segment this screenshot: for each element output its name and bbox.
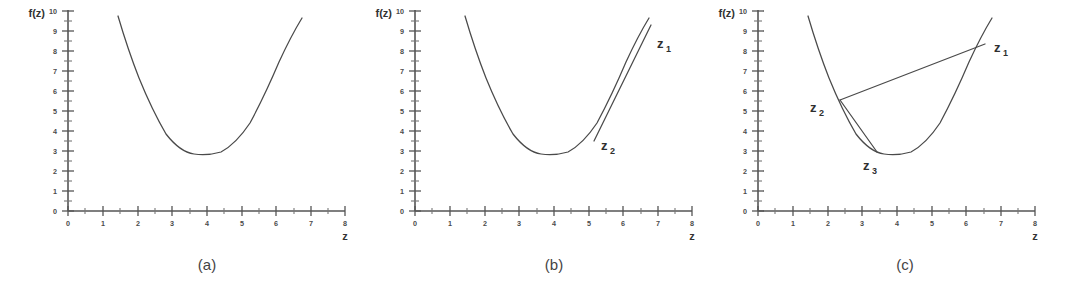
y-tick-labels: 0 1 2 3 4 5 6 7 8 9 10 <box>49 7 57 216</box>
y-tick-label: 4 <box>400 127 404 136</box>
label-z1-sub: 1 <box>1003 48 1008 58</box>
y-axis-title: f(z) <box>376 7 393 19</box>
panel-caption: (c) <box>896 256 914 273</box>
y-tick-label: 4 <box>53 127 57 136</box>
y-tick-label: 10 <box>739 7 747 16</box>
x-tick-labels: 0 1 2 3 4 5 6 7 8 <box>66 219 347 228</box>
y-tick-label: 10 <box>49 7 57 16</box>
label-z2-base: z <box>810 100 817 115</box>
label-z1: z 1 <box>657 36 671 54</box>
parabola-curve <box>808 16 992 155</box>
label-z1-sub: 1 <box>666 44 671 54</box>
y-tick-label: 9 <box>743 27 747 36</box>
y-tick-label: 3 <box>53 147 57 156</box>
label-z2-sub: 2 <box>819 108 824 118</box>
y-tick-label: 7 <box>400 67 404 76</box>
label-z2: z 2 <box>601 138 615 156</box>
x-tick-label: 4 <box>895 219 899 228</box>
x-tick-label: 7 <box>309 219 313 228</box>
label-z3-base: z <box>863 158 870 173</box>
y-tick-label: 10 <box>396 7 404 16</box>
y-tick-labels: 0 1 2 3 4 5 6 7 8 9 10 <box>396 7 404 216</box>
y-tick-labels: 0 1 2 3 4 5 6 7 8 9 10 <box>739 7 747 216</box>
y-tick-label: 8 <box>400 47 404 56</box>
x-tick-label: 8 <box>343 219 347 228</box>
panel-a-plot: 0 1 2 3 4 5 6 7 8 9 10 0 1 2 3 4 5 6 <box>0 0 360 285</box>
x-tick-label: 3 <box>170 219 174 228</box>
y-tick-label: 3 <box>743 147 747 156</box>
y-tick-label: 0 <box>53 207 57 216</box>
y-tick-label: 1 <box>400 187 404 196</box>
x-tick-label: 5 <box>587 219 591 228</box>
y-tick-label: 0 <box>400 207 404 216</box>
y-tick-label: 4 <box>743 127 747 136</box>
parabola-curve <box>118 16 302 155</box>
x-tick-label: 7 <box>999 219 1003 228</box>
x-tick-labels: 0 1 2 3 4 5 6 7 8 <box>413 219 694 228</box>
x-axis-title: z <box>689 230 695 242</box>
y-tick-label: 2 <box>743 167 747 176</box>
secant-line-z2-z3 <box>840 100 877 152</box>
panel-b: 0 1 2 3 4 5 6 7 8 9 10 0 1 2 3 4 5 6 7 <box>355 0 715 285</box>
y-tick-label: 1 <box>743 187 747 196</box>
secant-line-z2-z1 <box>840 44 985 100</box>
label-z2-base: z <box>601 138 608 153</box>
y-tick-label: 9 <box>400 27 404 36</box>
x-tick-label: 1 <box>101 219 105 228</box>
x-tick-label: 8 <box>1033 219 1037 228</box>
label-z3: z 3 <box>863 158 877 176</box>
y-ticks <box>409 11 421 211</box>
panel-b-plot: 0 1 2 3 4 5 6 7 8 9 10 0 1 2 3 4 5 6 7 <box>355 0 715 285</box>
label-z2: z 2 <box>810 100 824 118</box>
label-z3-sub: 3 <box>872 166 877 176</box>
panel-caption: (b) <box>545 256 563 273</box>
panel-c: 0 1 2 3 4 5 6 7 8 9 10 0 1 2 3 4 5 6 7 <box>700 0 1060 285</box>
x-tick-label: 2 <box>826 219 830 228</box>
x-tick-label: 3 <box>517 219 521 228</box>
y-axis-title: f(z) <box>29 7 46 19</box>
y-tick-label: 6 <box>400 87 404 96</box>
y-tick-label: 1 <box>53 187 57 196</box>
y-ticks <box>752 11 764 211</box>
y-tick-label: 5 <box>743 107 747 116</box>
x-tick-label: 4 <box>552 219 556 228</box>
x-tick-label: 8 <box>690 219 694 228</box>
y-tick-label: 8 <box>53 47 57 56</box>
y-tick-label: 2 <box>400 167 404 176</box>
y-tick-label: 2 <box>53 167 57 176</box>
y-tick-label: 9 <box>53 27 57 36</box>
x-tick-label: 7 <box>656 219 660 228</box>
y-tick-label: 7 <box>53 67 57 76</box>
x-tick-label: 6 <box>274 219 278 228</box>
y-ticks <box>62 11 74 211</box>
x-tick-label: 1 <box>448 219 452 228</box>
panel-caption: (a) <box>198 256 216 273</box>
y-tick-label: 5 <box>53 107 57 116</box>
x-tick-label: 5 <box>240 219 244 228</box>
x-tick-label: 4 <box>205 219 209 228</box>
label-z1: z 1 <box>994 40 1008 58</box>
x-tick-label: 5 <box>930 219 934 228</box>
x-tick-label: 6 <box>621 219 625 228</box>
y-axis-title: f(z) <box>719 7 736 19</box>
x-tick-labels: 0 1 2 3 4 5 6 7 8 <box>756 219 1037 228</box>
x-axis-title: z <box>342 230 348 242</box>
y-tick-label: 5 <box>400 107 404 116</box>
label-z1-base: z <box>657 36 664 51</box>
x-axis-title: z <box>1032 230 1038 242</box>
x-tick-label: 6 <box>964 219 968 228</box>
x-tick-label: 0 <box>756 219 760 228</box>
x-tick-label: 0 <box>413 219 417 228</box>
y-tick-label: 3 <box>400 147 404 156</box>
panel-a: 0 1 2 3 4 5 6 7 8 9 10 0 1 2 3 4 5 6 <box>0 0 360 285</box>
x-tick-label: 1 <box>791 219 795 228</box>
panel-c-plot: 0 1 2 3 4 5 6 7 8 9 10 0 1 2 3 4 5 6 7 <box>700 0 1080 285</box>
secant-line-z2-z1 <box>594 25 651 141</box>
y-tick-label: 8 <box>743 47 747 56</box>
x-tick-label: 2 <box>136 219 140 228</box>
y-tick-label: 7 <box>743 67 747 76</box>
figure-three-panel-optimization: 0 1 2 3 4 5 6 7 8 9 10 0 1 2 3 4 5 6 <box>0 0 1080 285</box>
y-tick-label: 0 <box>743 207 747 216</box>
x-tick-label: 0 <box>66 219 70 228</box>
x-tick-label: 2 <box>483 219 487 228</box>
